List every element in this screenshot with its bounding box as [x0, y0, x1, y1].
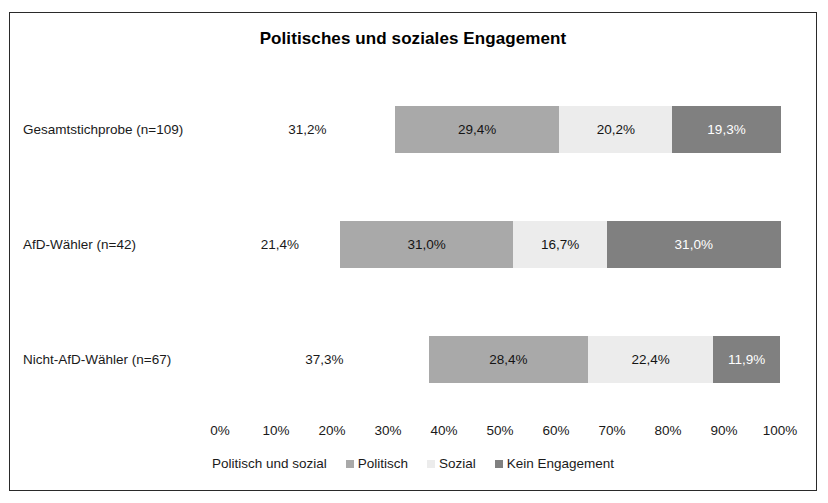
- x-tick-label: 70%: [598, 423, 625, 438]
- bar-segment: 21,4%: [220, 221, 340, 268]
- bar-segment: 31,0%: [340, 221, 514, 268]
- bar-segment: 28,4%: [429, 336, 588, 383]
- legend-label: Politisch und sozial: [212, 456, 327, 471]
- legend-swatch-icon: [495, 460, 503, 468]
- x-tick-label: 100%: [763, 423, 798, 438]
- bar-segment: 11,9%: [713, 336, 780, 383]
- x-tick-label: 90%: [710, 423, 737, 438]
- legend-item[interactable]: Kein Engagement: [495, 456, 614, 471]
- legend-swatch-icon: [346, 460, 354, 468]
- legend-label: Politisch: [358, 456, 408, 471]
- bar-segment: 22,4%: [588, 336, 713, 383]
- stacked-bar: 31,2%29,4%20,2%19,3%: [220, 106, 780, 153]
- chart-legend: Politisch und sozialPolitischSozialKein …: [10, 456, 816, 471]
- chart-frame: Politisches und soziales Engagement Gesa…: [9, 12, 817, 491]
- bar-segment: 31,0%: [607, 221, 781, 268]
- bar-segment: 16,7%: [513, 221, 607, 268]
- bar-row: Nicht-AfD-Wähler (n=67)37,3%28,4%22,4%11…: [10, 336, 816, 383]
- stacked-bar: 37,3%28,4%22,4%11,9%: [220, 336, 780, 383]
- stacked-bar: 21,4%31,0%16,7%31,0%: [220, 221, 780, 268]
- bar-segment: 19,3%: [672, 106, 780, 153]
- legend-item[interactable]: Politisch: [346, 456, 408, 471]
- x-tick-label: 40%: [430, 423, 457, 438]
- x-tick-label: 30%: [374, 423, 401, 438]
- bar-segment: 20,2%: [559, 106, 672, 153]
- x-tick-label: 0%: [210, 423, 230, 438]
- category-label: Nicht-AfD-Wähler (n=67): [23, 336, 171, 383]
- bar-segment: 29,4%: [395, 106, 560, 153]
- legend-swatch-icon: [427, 460, 435, 468]
- bar-row: Gesamtstichprobe (n=109)31,2%29,4%20,2%1…: [10, 106, 816, 153]
- x-tick-label: 80%: [654, 423, 681, 438]
- bar-segment: 37,3%: [220, 336, 429, 383]
- bar-row: AfD-Wähler (n=42)21,4%31,0%16,7%31,0%: [10, 221, 816, 268]
- legend-item[interactable]: Politisch und sozial: [212, 456, 327, 471]
- plot-area: Gesamtstichprobe (n=109)31,2%29,4%20,2%1…: [10, 13, 816, 490]
- x-tick-label: 20%: [318, 423, 345, 438]
- legend-item[interactable]: Sozial: [427, 456, 476, 471]
- x-tick-label: 60%: [542, 423, 569, 438]
- legend-label: Kein Engagement: [507, 456, 614, 471]
- x-tick-label: 10%: [262, 423, 289, 438]
- x-axis: 0%10%20%30%40%50%60%70%80%90%100%: [220, 423, 780, 445]
- bar-segment: 31,2%: [220, 106, 395, 153]
- category-label: AfD-Wähler (n=42): [23, 221, 136, 268]
- x-tick-label: 50%: [486, 423, 513, 438]
- category-label: Gesamtstichprobe (n=109): [23, 106, 183, 153]
- legend-label: Sozial: [439, 456, 476, 471]
